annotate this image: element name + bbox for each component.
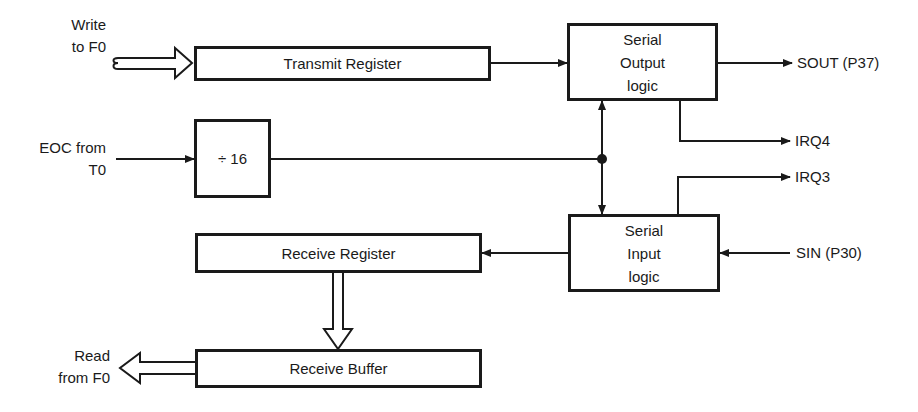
read-label-line1: Read (20, 345, 110, 367)
serial-output-line1: Serial (620, 28, 665, 51)
irq3-label: IRQ3 (795, 166, 830, 188)
eoc-label-line2: T0 (10, 159, 106, 181)
serial-input-line3: logic (625, 265, 663, 288)
irq4-label: IRQ4 (795, 130, 830, 152)
read-bus-arrow (120, 353, 195, 383)
write-bus-arrow (118, 48, 192, 78)
write-to-f0-label: Write to F0 (40, 14, 106, 58)
eoc-label-line1: EOC from (10, 137, 106, 159)
transmit-register-block: Transmit Register (194, 46, 491, 81)
rx-bus-arrow (324, 272, 352, 349)
write-label-line2: to F0 (40, 36, 106, 58)
serial-input-logic-block: Serial Input logic (568, 214, 720, 292)
sin-label: SIN (P30) (796, 242, 862, 264)
sout-label: SOUT (P37) (797, 52, 879, 74)
read-from-f0-label: Read from F0 (20, 345, 110, 389)
serial-input-line2: Input (625, 242, 663, 265)
transmit-register-label: Transmit Register (284, 52, 402, 75)
serial-output-logic-block: Serial Output logic (567, 23, 718, 101)
serial-output-line2: Output (620, 51, 665, 74)
write-label-line1: Write (40, 14, 106, 36)
junction-dot (597, 154, 607, 164)
receive-buffer-label: Receive Buffer (289, 357, 387, 380)
divide-by-16-block: ÷ 16 (194, 119, 271, 198)
serial-output-line3: logic (620, 74, 665, 97)
eoc-from-t0-label: EOC from T0 (10, 137, 106, 181)
receive-register-label: Receive Register (281, 242, 395, 265)
serial-input-line1: Serial (625, 219, 663, 242)
read-label-line2: from F0 (20, 367, 110, 389)
divider-label: ÷ 16 (218, 147, 247, 170)
receive-register-block: Receive Register (195, 233, 482, 273)
receive-buffer-block: Receive Buffer (195, 349, 482, 388)
write-bus-squiggle (114, 58, 119, 69)
